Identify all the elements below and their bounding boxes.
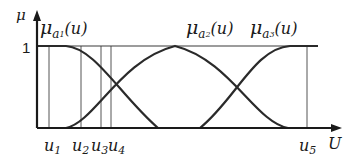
label-mu-a1: μa1(u) [40,18,87,40]
curve-a2 [66,46,288,128]
level-one-label: 1 [22,40,30,55]
curves [37,46,318,128]
x-axis-label: U [328,136,341,152]
x-axis-arrow-icon [331,124,342,132]
label-u2: u2 [72,138,89,156]
label-mu-a3: μa3(u) [250,18,297,40]
curve-a1 [37,46,158,128]
y-axis-label: μ [16,8,26,23]
label-u1: u1 [44,138,61,156]
label-u5: u5 [299,138,316,156]
label-u3: u3 [91,138,108,156]
label-mu-a2: μa2(u) [186,18,233,40]
membership-function-diagram: μ 1 μa1(u) μa2(u) μa3(u) u1 u2 u3 u4 u5 … [0,0,354,160]
label-u4: u4 [108,138,125,156]
curve-a3 [200,46,318,128]
